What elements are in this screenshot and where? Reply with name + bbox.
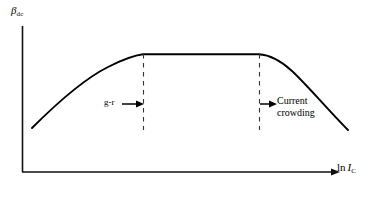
y-axis-label-subscript: dc — [16, 10, 23, 18]
figure-beta-dc-vs-ln-ic: βdc lnIC g-r Current crowding — [0, 0, 384, 198]
x-axis-label-prefix: ln — [337, 161, 346, 173]
y-axis-label: βdc — [11, 5, 24, 18]
x-axis-label-subscript: C — [351, 167, 356, 175]
current-crowding-arrow-icon — [260, 100, 277, 107]
current-crowding-annotation-label: Current crowding — [277, 95, 315, 119]
gr-annotation-label: g-r — [104, 98, 115, 107]
x-axis-label: lnIC — [337, 162, 356, 175]
plot-canvas — [0, 0, 384, 198]
current-crowding-line-1: Current — [277, 95, 315, 107]
current-crowding-line-2: crowding — [277, 107, 315, 119]
beta-dc-curve — [32, 54, 348, 130]
gr-arrow-icon — [122, 100, 144, 107]
